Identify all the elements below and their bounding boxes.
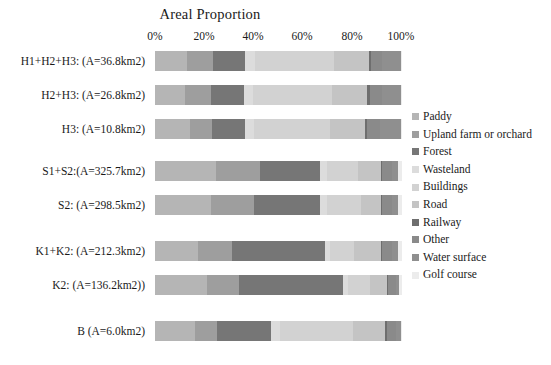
- bar-segment: [155, 321, 195, 341]
- chart-legend: PaddyUpland farm or orchardForestWastela…: [412, 108, 551, 284]
- legend-label: Water surface: [423, 252, 486, 264]
- bar-segment: [387, 321, 396, 341]
- bar-segment: [155, 85, 185, 105]
- bar-segment: [254, 195, 321, 215]
- bar-segment: [380, 119, 401, 139]
- bar-segment: [382, 241, 392, 261]
- legend-swatch-icon: [412, 113, 419, 120]
- legend-item: Railway: [412, 214, 551, 232]
- bar-segment: [244, 85, 253, 105]
- bar-segment: [260, 161, 321, 181]
- legend-item: Road: [412, 196, 551, 214]
- bar-segment: [398, 161, 402, 181]
- bar-segment: [398, 241, 402, 261]
- bar-segment: [198, 241, 231, 261]
- bar-segment: [327, 195, 362, 215]
- legend-item: Other: [412, 231, 551, 249]
- bar-track: [155, 161, 402, 181]
- bar-segment: [370, 85, 382, 105]
- legend-label: Other: [423, 234, 449, 246]
- bar-row: H1+H2+H3: (A=36.8km2): [0, 51, 551, 71]
- bar-segment: [388, 275, 395, 295]
- bar-segment: [280, 321, 353, 341]
- legend-label: Paddy: [423, 111, 452, 123]
- bar-segment: [354, 241, 381, 261]
- legend-swatch-icon: [412, 254, 419, 261]
- bar-category-label: H3: (A=10.8km2): [62, 123, 145, 135]
- bar-segment: [211, 195, 254, 215]
- bar-segment: [217, 321, 271, 341]
- bar-segment: [185, 85, 211, 105]
- legend-swatch-icon: [412, 201, 419, 208]
- bar-segment: [239, 275, 343, 295]
- legend-swatch-icon: [412, 272, 419, 279]
- bar-segment: [195, 321, 217, 341]
- legend-item: Buildings: [412, 178, 551, 196]
- bar-segment: [253, 85, 332, 105]
- bar-track: [155, 119, 402, 139]
- bar-segment: [254, 119, 331, 139]
- bar-segment: [155, 161, 216, 181]
- bar-segment: [382, 161, 392, 181]
- bar-segment: [155, 195, 211, 215]
- bar-track: [155, 241, 402, 261]
- bar-segment: [216, 161, 260, 181]
- bar-segment: [232, 241, 326, 261]
- bar-track: [155, 275, 402, 295]
- bar-segment: [382, 195, 392, 215]
- bar-track: [155, 85, 402, 105]
- bar-segment: [398, 195, 402, 215]
- bar-segment: [332, 85, 368, 105]
- bar-category-label: H1+H2+H3: (A=36.8km2): [21, 55, 145, 67]
- legend-item: Upland farm or orchard: [412, 126, 551, 144]
- legend-item: Golf course: [412, 266, 551, 284]
- bar-segment: [212, 119, 245, 139]
- legend-label: Wasteland: [423, 164, 471, 176]
- bar-category-label: K1+K2: (A=212.3km2): [36, 245, 145, 257]
- legend-label: Golf course: [423, 269, 477, 281]
- bar-track: [155, 195, 402, 215]
- bar-segment: [334, 51, 369, 71]
- legend-item: Forest: [412, 143, 551, 161]
- bar-segment: [348, 275, 370, 295]
- bar-row: H2+H3: (A=26.8km2): [0, 85, 551, 105]
- legend-label: Road: [423, 199, 447, 211]
- bar-category-label: H2+H3: (A=26.8km2): [41, 89, 145, 101]
- bar-segment: [401, 51, 402, 71]
- bar-category-label: K2: (A=136.2km2)): [52, 279, 145, 291]
- bar-segment: [330, 241, 353, 261]
- bar-segment: [187, 51, 213, 71]
- bar-segment: [370, 275, 387, 295]
- bar-category-label: B (A=6.0km2): [77, 325, 145, 337]
- legend-swatch-icon: [412, 148, 419, 155]
- bar-segment: [271, 321, 280, 341]
- bar-segment: [353, 321, 385, 341]
- legend-label: Upland farm or orchard: [423, 129, 532, 141]
- legend-swatch-icon: [412, 219, 419, 226]
- bar-segment: [155, 241, 198, 261]
- bar-track: [155, 51, 402, 71]
- bar-category-label: S2: (A=298.5km2): [58, 199, 145, 211]
- bar-segment: [367, 119, 379, 139]
- bar-segment: [327, 161, 358, 181]
- bar-segment: [245, 119, 254, 139]
- bar-segment: [245, 51, 255, 71]
- bar-segment: [190, 119, 212, 139]
- bar-segment: [401, 119, 402, 139]
- legend-item: Water surface: [412, 249, 551, 267]
- bar-segment: [401, 85, 402, 105]
- bar-segment: [382, 51, 401, 71]
- legend-swatch-icon: [412, 131, 419, 138]
- bar-category-label: S1+S2:(A=325.7km2): [42, 165, 145, 177]
- bar-segment: [155, 51, 187, 71]
- legend-swatch-icon: [412, 236, 419, 243]
- bar-row: B (A=6.0km2): [0, 321, 551, 341]
- bar-segment: [213, 51, 245, 71]
- legend-label: Forest: [423, 146, 452, 158]
- areal-proportion-chart: Areal Proportion 0%20%40%60%80%100% H1+H…: [0, 0, 551, 365]
- bar-segment: [361, 195, 381, 215]
- bar-segment: [330, 119, 365, 139]
- legend-item: Paddy: [412, 108, 551, 126]
- bar-segment: [401, 321, 402, 341]
- bar-segment: [399, 275, 401, 295]
